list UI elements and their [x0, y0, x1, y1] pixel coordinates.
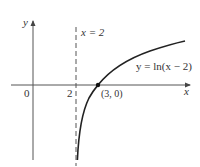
curve-label: y = ln(x − 2)	[136, 60, 192, 73]
origin-label: 0	[24, 87, 30, 99]
asymptote-label: x = 2	[80, 26, 105, 38]
point-label: (3, 0)	[101, 88, 123, 100]
tick-label-2: 2	[67, 87, 73, 99]
label-layer: y x 0 2 x = 2 (3, 0) y = ln(x − 2)	[0, 0, 200, 167]
x-axis-label: x	[183, 85, 189, 97]
y-axis-label: y	[22, 16, 28, 28]
